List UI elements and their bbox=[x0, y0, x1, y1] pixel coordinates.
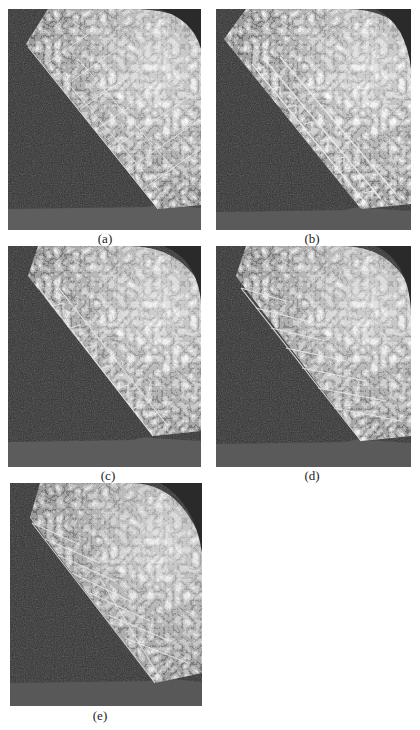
textured-surface-grid-image bbox=[10, 483, 202, 706]
caption-c: (c) bbox=[88, 469, 128, 483]
caption-d: (d) bbox=[292, 469, 332, 483]
panel-d bbox=[216, 246, 411, 467]
caption-a: (a) bbox=[85, 232, 125, 246]
textured-surface-grid-image bbox=[216, 9, 411, 230]
panel-b bbox=[216, 9, 411, 230]
figure: (a) (b) bbox=[0, 0, 420, 730]
caption-e: (e) bbox=[80, 709, 120, 723]
textured-surface-grid-image bbox=[8, 9, 201, 230]
panel-a bbox=[8, 9, 201, 230]
caption-b: (b) bbox=[292, 232, 332, 246]
textured-surface-grid-image bbox=[8, 246, 201, 467]
panel-c bbox=[8, 246, 201, 467]
textured-surface-grid-image bbox=[216, 246, 411, 467]
panel-e bbox=[10, 483, 202, 706]
